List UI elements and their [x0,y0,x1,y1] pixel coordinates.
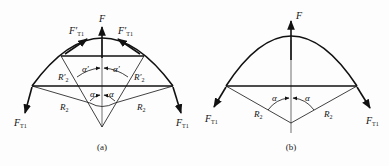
tension-left-arrow-b [214,87,226,107]
tension-lower-right-label: FT1 [175,117,189,129]
force-label-a: F [98,13,106,24]
radius-outer-right-label: R2 [136,102,146,113]
caption-b: (b) [286,142,297,152]
tension-lower-right-arrow [173,87,181,113]
angle-inner-left-label: α′ [82,64,90,74]
belt-force-diagram: F F′T1 F′T1 FT1 FT1 R′2 R′2 α′ α′ α α R2… [0,0,389,166]
radius-outer-join-arc [90,103,115,107]
radius-left-label-b: R2 [253,109,263,120]
radius-outer-left-line [32,86,90,103]
radius-inner-left-label: R′2 [57,72,68,83]
angle-inner-right-label: α′ [113,64,121,74]
tension-lower-left-arrow [25,87,32,113]
angle-outer-left-label: α [90,89,95,99]
tension-lower-left-label: FT1 [13,117,27,129]
caption-a: (a) [97,142,107,152]
tension-upper-left-label: F′T1 [68,25,84,37]
radius-outer-left-label: R2 [59,102,69,113]
tension-upper-right-label: F′T1 [117,25,133,37]
tension-right-label-b: FT1 [365,115,379,127]
tension-left-label-b: FT1 [204,113,218,125]
tension-right-arrow-b [357,87,370,108]
angle-left-label-b: α [272,93,277,103]
panel-b: F FT1 FT1 α α R2 R2 (b) [204,10,379,152]
diagram-svg: F F′T1 F′T1 FT1 FT1 R′2 R′2 α′ α′ α α R2… [0,0,389,166]
angle-arc-right-b [293,98,314,110]
tension-upper-left-arrow [65,39,87,54]
radius-right-label-b: R2 [323,109,333,120]
angle-outer-right-label: α [109,89,114,99]
radius-outer-right-line [115,86,173,103]
angle-right-label-b: α [305,93,310,103]
radius-inner-right-label: R′2 [133,72,144,83]
tension-upper-right-arrow [118,39,140,54]
force-label-b: F [295,10,303,21]
panel-a: F F′T1 F′T1 FT1 FT1 R′2 R′2 α′ α′ α α R2… [13,13,189,152]
